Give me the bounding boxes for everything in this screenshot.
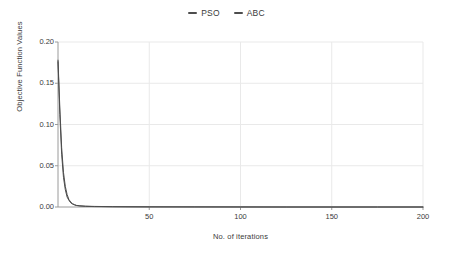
figure-chart: PSO ABC 0.000.050.100.150.20 50100150200… (0, 0, 453, 254)
plot-area: 0.000.050.100.150.20 50100150200 Objecti… (0, 0, 453, 254)
x-tick-label: 100 (221, 212, 261, 221)
x-axis-title: No. of iterations (58, 232, 423, 241)
x-axis-ticks: 50100150200 (0, 0, 453, 254)
y-axis-title: Objective Function Values (15, 0, 24, 142)
x-tick-label: 200 (403, 212, 443, 221)
x-tick-label: 150 (312, 212, 352, 221)
x-tick-label: 50 (129, 212, 169, 221)
